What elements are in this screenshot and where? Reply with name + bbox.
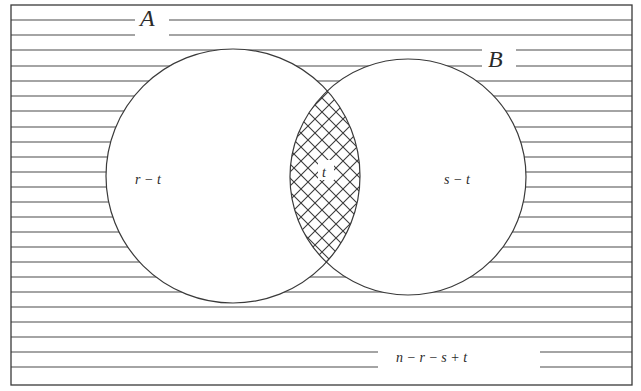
outside-region-label: n − r − s + t bbox=[396, 350, 468, 365]
region-a-only-label: r − t bbox=[135, 172, 162, 187]
set-b-label: B bbox=[488, 46, 503, 72]
region-b-only-label: s − t bbox=[444, 172, 471, 187]
venn-diagram: A B r − t t s − t n − r − s + t bbox=[0, 0, 641, 391]
set-a-label: A bbox=[138, 5, 155, 31]
